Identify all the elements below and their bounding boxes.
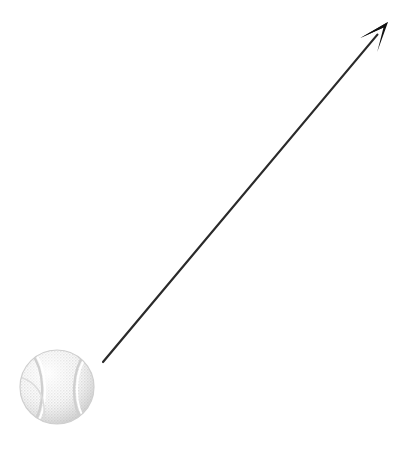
scene-svg xyxy=(0,0,419,449)
tennis-ball xyxy=(20,350,94,425)
illustration-canvas: Tennis ball with motion direction arrow xyxy=(0,0,419,449)
